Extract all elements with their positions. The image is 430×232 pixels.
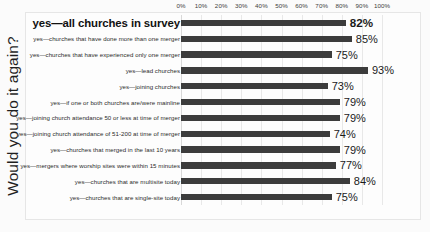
- x-axis-tick-70: 70%: [315, 2, 328, 9]
- category-label: yes—churches that are multisite today: [0, 178, 180, 185]
- x-axis-tick-90: 90%: [356, 2, 369, 9]
- bar[interactable]: [181, 162, 336, 168]
- x-axis-tick-60: 60%: [295, 2, 308, 9]
- bar[interactable]: [181, 51, 332, 57]
- x-axis-tick-40: 40%: [255, 2, 268, 9]
- category-label: yes—churches that have done more than on…: [0, 35, 180, 42]
- bar-value-label: 84%: [350, 175, 376, 187]
- category-label: yes—churches that merged in the last 10 …: [0, 146, 180, 153]
- bar[interactable]: [181, 194, 332, 200]
- bar-row: yes—if one or both churches are/were mai…: [0, 94, 430, 110]
- bar-track: 74%: [181, 126, 382, 142]
- bar-track: 79%: [181, 94, 382, 110]
- bar-track: 84%: [181, 173, 382, 189]
- category-label: yes—joining church attendance 50 or less…: [0, 114, 180, 121]
- bar-row: yes—mergers where worship sites were wit…: [0, 158, 430, 174]
- bar[interactable]: [181, 36, 352, 42]
- bar[interactable]: [181, 99, 340, 105]
- category-label: yes—churches that are single-site today: [0, 194, 180, 201]
- bar-track: 85%: [181, 31, 382, 47]
- bar-row: yes—churches that are multisite today84%: [0, 173, 430, 189]
- bar-value-label: 73%: [328, 80, 354, 92]
- bar-track: 75%: [181, 189, 382, 205]
- bar-track: 73%: [181, 78, 382, 94]
- bar[interactable]: [181, 131, 330, 137]
- bar[interactable]: [181, 146, 340, 152]
- x-axis-tick-10: 10%: [195, 2, 208, 9]
- bar-track: 77%: [181, 158, 382, 174]
- bar-value-label: 75%: [332, 191, 358, 203]
- category-label: yes—all churches in survey: [0, 17, 180, 29]
- bar-value-label: 85%: [352, 32, 378, 44]
- bar-row: yes—churches that merged in the last 10 …: [0, 142, 430, 158]
- x-axis-tick-100: 100%: [374, 2, 390, 9]
- x-axis-tick-labels: 0%10%20%30%40%50%60%70%80%90%100%: [181, 2, 382, 14]
- bar-value-label: 79%: [340, 96, 366, 108]
- x-axis-tick-50: 50%: [275, 2, 288, 9]
- bar-value-label: 75%: [332, 48, 358, 60]
- bar-row: yes—churches that have done more than on…: [0, 31, 430, 47]
- bar-track: 82%: [181, 15, 382, 31]
- bar-track: 93%: [181, 63, 382, 79]
- chart-container: Would you do it again? 0%10%20%30%40%50%…: [0, 0, 430, 232]
- x-axis-tick-30: 30%: [235, 2, 248, 9]
- bar-track: 79%: [181, 142, 382, 158]
- bar-value-label: 82%: [346, 16, 373, 29]
- x-axis-tick-20: 20%: [215, 2, 228, 9]
- x-axis-tick-0: 0%: [176, 2, 185, 9]
- bar-row: yes—lead churches93%: [0, 63, 430, 79]
- bar-row: yes—joining church attendance 50 or less…: [0, 110, 430, 126]
- bar-row: yes—churches that have experienced only …: [0, 47, 430, 63]
- bar[interactable]: [181, 83, 328, 89]
- bar-row: yes—joining church attendance of 51-200 …: [0, 126, 430, 142]
- bar-value-label: 77%: [336, 159, 362, 171]
- bar-value-label: 79%: [340, 143, 366, 155]
- bar-row: yes—all churches in survey82%: [0, 15, 430, 31]
- bar-rows: yes—all churches in survey82%yes—churche…: [0, 15, 430, 205]
- bar-track: 79%: [181, 110, 382, 126]
- category-label: yes—mergers where worship sites were wit…: [0, 162, 180, 169]
- bar[interactable]: [181, 20, 346, 26]
- x-axis-tick-80: 80%: [335, 2, 348, 9]
- bar-track: 75%: [181, 47, 382, 63]
- category-label: yes—if one or both churches are/were mai…: [0, 99, 180, 106]
- category-label: yes—joining church attendance of 51-200 …: [0, 130, 180, 137]
- bar-value-label: 79%: [340, 111, 366, 123]
- bar[interactable]: [181, 178, 350, 184]
- bar[interactable]: [181, 115, 340, 121]
- category-label: yes—joining churches: [0, 83, 180, 90]
- bar-value-label: 93%: [368, 64, 394, 76]
- category-label: yes—churches that have experienced only …: [0, 51, 180, 58]
- category-label: yes—lead churches: [0, 67, 180, 74]
- bar-value-label: 74%: [330, 127, 356, 139]
- bar[interactable]: [181, 67, 368, 73]
- bar-row: yes—joining churches73%: [0, 78, 430, 94]
- bar-row: yes—churches that are single-site today7…: [0, 189, 430, 205]
